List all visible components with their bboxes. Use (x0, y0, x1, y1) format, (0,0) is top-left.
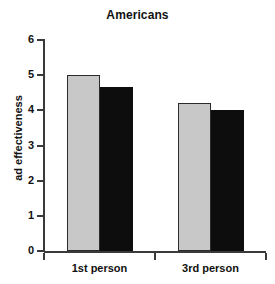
bar (100, 87, 133, 251)
y-tick-label: 5 (16, 69, 34, 80)
y-tick-label: 2 (16, 175, 34, 186)
y-tick-label: 1 (16, 210, 34, 221)
y-tick-label: 4 (16, 104, 34, 115)
bar-chart-figure: Americans ad effectiveness 0123456 1st p… (0, 0, 275, 284)
bar (67, 75, 100, 251)
y-tick-label: 0 (16, 245, 34, 256)
y-tick-label: 6 (16, 34, 34, 45)
y-tick-mark (37, 250, 44, 252)
x-tick-mark (265, 253, 267, 260)
y-tick-mark (37, 74, 44, 76)
bar (211, 110, 244, 251)
y-tick-mark (37, 109, 44, 111)
bar (178, 103, 211, 251)
x-tick-label: 3rd person (156, 262, 266, 274)
x-tick-mark (154, 253, 156, 260)
y-axis-label: ad effectiveness (12, 58, 24, 218)
x-tick-mark (43, 253, 45, 260)
plot-area (44, 40, 266, 251)
chart-title: Americans (0, 8, 275, 22)
y-tick-mark (37, 180, 44, 182)
y-tick-mark (37, 145, 44, 147)
y-tick-label: 3 (16, 140, 34, 151)
y-tick-mark (37, 39, 44, 41)
x-tick-label: 1st person (45, 262, 155, 274)
y-tick-mark (37, 215, 44, 217)
